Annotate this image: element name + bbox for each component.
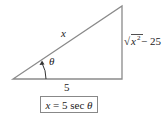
hypotenuse-label: x: [60, 27, 66, 39]
opposite-rest: − 25: [141, 35, 161, 47]
opposite-label: √ x 2 − 25: [124, 34, 161, 47]
angle-arc: [42, 63, 46, 79]
formula-middle: = 5 sec: [50, 99, 87, 111]
formula-box: x = 5 sec θ: [40, 96, 98, 113]
radical-sign: √: [124, 35, 131, 47]
opposite-var: x: [130, 35, 136, 47]
right-triangle: [13, 6, 122, 79]
formula-rhs: θ: [87, 99, 92, 111]
adjacent-label: 5: [64, 81, 70, 93]
angle-label: θ: [49, 55, 55, 67]
